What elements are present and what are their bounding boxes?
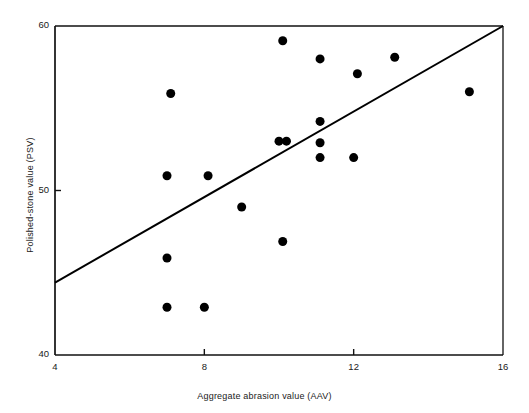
x-tick-label: 16 [493, 361, 513, 372]
y-axis-label: Polished-stone value (PSV) [25, 105, 35, 285]
data-point [166, 89, 175, 98]
data-point [316, 138, 325, 147]
data-point [278, 36, 287, 45]
data-point [316, 153, 325, 162]
axes-frame [55, 26, 503, 355]
y-tick-label: 60 [28, 19, 49, 30]
data-point [390, 53, 399, 62]
regression-line [55, 26, 503, 283]
fit-line [55, 26, 503, 283]
plot-canvas [0, 0, 529, 413]
x-tick-label: 4 [45, 361, 65, 372]
data-point [278, 237, 287, 246]
data-point [465, 87, 474, 96]
scatter-plot-figure: Aggregate abrasion value (AAV) Polished-… [0, 0, 529, 413]
x-tick-label: 12 [344, 361, 364, 372]
data-point [163, 171, 172, 180]
axis-ticks [55, 191, 354, 356]
data-point [316, 54, 325, 63]
data-point [353, 69, 362, 78]
x-tick-label: 8 [194, 361, 214, 372]
data-points [163, 36, 474, 311]
data-point [349, 153, 358, 162]
data-point [316, 117, 325, 126]
y-tick-label: 50 [28, 184, 49, 195]
data-point [163, 303, 172, 312]
data-point [200, 303, 209, 312]
data-point [282, 137, 291, 146]
data-point [204, 171, 213, 180]
x-axis-label: Aggregate abrasion value (AAV) [0, 391, 529, 401]
data-point [163, 253, 172, 262]
y-tick-label: 40 [28, 348, 49, 359]
data-point [237, 202, 246, 211]
